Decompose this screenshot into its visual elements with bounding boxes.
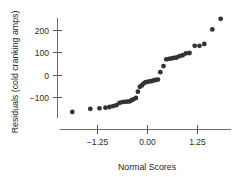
x-tick-label-1-25: 1.25 xyxy=(189,137,206,147)
data-point xyxy=(97,106,102,111)
data-point xyxy=(158,70,163,75)
y-tick-label-200: 200 xyxy=(35,26,49,36)
y-tick-label-0: 0 xyxy=(44,71,49,81)
data-point xyxy=(218,16,223,21)
x-axis-title: Normal Scores xyxy=(118,162,177,172)
data-point xyxy=(161,64,166,69)
data-point xyxy=(103,105,108,110)
data-point xyxy=(202,42,207,47)
data-point xyxy=(192,43,197,48)
data-point xyxy=(197,43,202,48)
data-point xyxy=(210,27,215,32)
y-tick-label-neg100: −100 xyxy=(30,93,49,103)
scatter-points-layer xyxy=(70,16,223,114)
data-point xyxy=(187,51,192,56)
x-tick-label-0: 0.00 xyxy=(139,137,156,147)
data-point xyxy=(134,96,139,101)
data-point xyxy=(88,106,93,111)
data-point xyxy=(136,89,141,94)
data-point xyxy=(156,77,161,82)
x-tick-label-neg1-25: −1.25 xyxy=(87,137,109,147)
y-axis-group: 200 100 0 −100 Residuals (cold cranking … xyxy=(10,11,62,134)
data-point xyxy=(70,110,75,115)
plot-canvas: 200 100 0 −100 Residuals (cold cranking … xyxy=(0,0,246,177)
y-axis-title: Residuals (cold cranking amps) xyxy=(10,11,20,134)
normal-probability-plot-figure: 200 100 0 −100 Residuals (cold cranking … xyxy=(0,0,246,177)
y-tick-label-100: 100 xyxy=(35,48,49,58)
x-axis-group: −1.25 0.00 1.25 Normal Scores xyxy=(60,125,231,172)
